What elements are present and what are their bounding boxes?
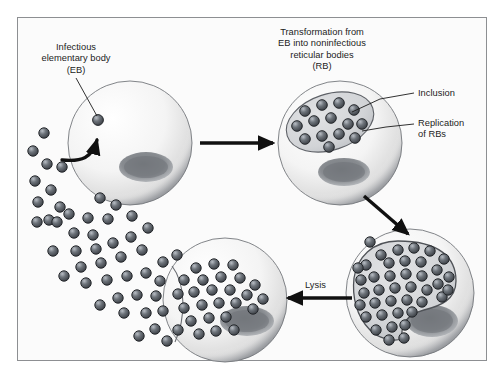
label-lysis: Lysis — [305, 280, 326, 291]
host-cell-packed — [346, 229, 474, 357]
label-infectious-elementary-body: Infectious elementary body (EB) — [21, 42, 131, 76]
host-cell-infection — [62, 81, 192, 205]
label-transformation-eb-to-rb: Transformation from EB into noninfectiou… — [256, 27, 388, 73]
eb-particle — [93, 115, 104, 126]
host-cell-inclusion — [278, 81, 402, 205]
label-inclusion: Inclusion — [418, 88, 455, 99]
arrow-inclusion-to-packed — [364, 196, 408, 234]
figure-canvas: Infectious elementary body (EB) Transfor… — [0, 0, 504, 377]
label-replication-of-rbs: Replication of RBs — [418, 118, 464, 141]
